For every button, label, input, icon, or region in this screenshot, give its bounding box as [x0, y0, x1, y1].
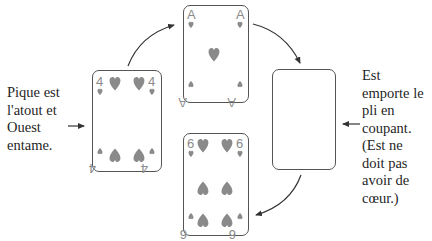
- heart-icon: [198, 214, 209, 227]
- rank-index: 6: [236, 136, 243, 151]
- rank-index: 4: [148, 74, 155, 89]
- heart-icon: [98, 89, 103, 95]
- heart-icon: [150, 89, 155, 95]
- rank-index: A: [178, 95, 187, 110]
- heart-icon: [238, 151, 243, 157]
- heart-icon: [238, 213, 243, 219]
- heart-icon: [134, 77, 145, 90]
- heart-icon: [222, 139, 233, 152]
- arrow-west-to-north: [128, 25, 174, 66]
- card-south-pips: 6 6 6 6: [180, 136, 243, 241]
- heart-icon: [98, 148, 103, 154]
- heart-icon: [238, 81, 243, 87]
- rank-index: 6: [229, 227, 236, 241]
- heart-icon: [238, 22, 243, 28]
- rank-index: 4: [96, 74, 103, 89]
- heart-icon: [189, 22, 194, 28]
- heart-icon: [110, 77, 121, 90]
- heart-icon: [189, 151, 194, 157]
- rank-index: 6: [187, 136, 194, 151]
- heart-icon: [134, 149, 145, 162]
- heart-icon: [189, 81, 194, 87]
- heart-icon: [222, 214, 233, 227]
- heart-icon: [189, 213, 194, 219]
- rank-index: A: [236, 7, 245, 22]
- card-west-pips: 4 4 4 4: [89, 74, 155, 176]
- heart-icon: [198, 139, 209, 152]
- arrow-north-to-east: [253, 24, 300, 63]
- card-north-pips: A A A A: [178, 7, 245, 110]
- diagram-overlay: 4 4 4 4 A A A A 6 6 6: [0, 0, 432, 241]
- heart-icon: [150, 148, 155, 154]
- rank-index: A: [187, 7, 196, 22]
- rank-index: 6: [180, 227, 187, 241]
- rank-index: 4: [141, 161, 148, 176]
- arrow-east-to-south: [256, 175, 301, 215]
- heart-icon: [209, 48, 220, 61]
- rank-index: 4: [89, 161, 96, 176]
- heart-icon: [198, 182, 209, 195]
- heart-icon: [110, 149, 121, 162]
- heart-icon: [222, 182, 233, 195]
- rank-index: A: [227, 95, 236, 110]
